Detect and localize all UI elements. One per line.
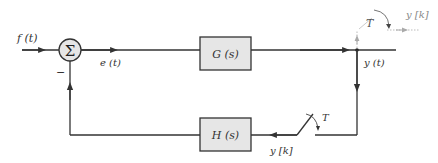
feedback-sampled-label: y [k] bbox=[269, 145, 293, 156]
curved-arrow-icon bbox=[374, 10, 389, 26]
minus-sign: − bbox=[56, 66, 65, 79]
error-label: e (t) bbox=[100, 57, 121, 68]
feedback-return-line bbox=[70, 61, 200, 135]
feedback-sampler bbox=[297, 114, 320, 135]
input-label: f (t) bbox=[16, 32, 38, 45]
feedback-block-h: H (s) bbox=[200, 118, 251, 151]
output-signal-line bbox=[251, 48, 396, 52]
forward-block-g: G (s) bbox=[200, 37, 251, 70]
forward-block-label: G (s) bbox=[212, 48, 239, 61]
top-sampled-output-label: y [k] bbox=[405, 9, 429, 20]
feedback-block-label: H (s) bbox=[211, 129, 239, 142]
sigma-icon: Σ bbox=[65, 42, 76, 60]
summing-junction: Σ bbox=[59, 39, 81, 61]
block-diagram: f (t) Σ − e (t) G (s) y (t) T y [k] bbox=[0, 0, 438, 163]
output-label: y (t) bbox=[363, 57, 385, 68]
feedback-sampler-period: T bbox=[322, 112, 330, 123]
top-sampler-period: T bbox=[366, 17, 375, 30]
